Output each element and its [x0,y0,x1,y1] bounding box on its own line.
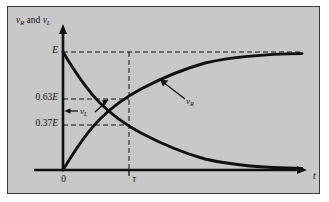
y-axis-arrowhead [59,24,67,34]
curve-label-vL-sub: L [84,111,87,117]
x-tick-label-tau-glyph: τ [133,174,136,184]
curve-label-vR-sub: R [190,101,194,107]
x-axis-title: t [313,172,316,182]
y-tick-label-037E-number: 0.37 [36,118,53,128]
x-tick-label-origin: 0 [52,175,66,185]
y-axis-title-sub-L: L [47,19,51,26]
leader-line-vR [163,82,185,99]
curve-label-vL: vL [80,107,87,116]
y-axis-title: vR and vL [16,16,50,26]
y-tick-label-E: E [28,46,58,56]
y-tick-label-037E: 0.37E [8,119,58,129]
y-axis-title-sub-R: R [20,19,24,26]
x-axis-title-glyph: t [313,171,316,181]
figure-container: vR and vL E 0.63E 0.37E 0 τ t vR vL [0,0,329,202]
x-tick-label-tau: τ [122,175,136,185]
curve-label-vR: vR [186,97,194,106]
y-tick-label-E-text: E [52,45,58,55]
leader-arrowhead-vL-axis [65,108,71,114]
y-tick-label-063E-unit: E [52,92,58,102]
y-tick-label-037E-unit: E [52,118,58,128]
y-axis-title-conjunction: and [24,15,42,25]
y-tick-label-063E-number: 0.63 [36,92,53,102]
y-tick-label-063E: 0.63E [8,93,58,103]
